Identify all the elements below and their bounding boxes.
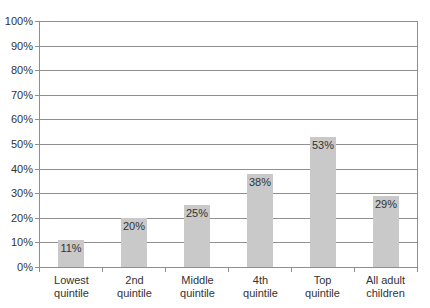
y-axis-tick-label: 40%: [0, 163, 33, 175]
y-axis-tick: [35, 119, 39, 120]
gridline: [40, 218, 417, 219]
y-axis-tick: [35, 169, 39, 170]
y-axis-tick: [35, 242, 39, 243]
gridline: [40, 144, 417, 145]
plot-area: 11%20%25%38%53%29%: [39, 21, 418, 268]
gridline: [40, 242, 417, 243]
y-axis-tick-label: 0%: [0, 261, 33, 273]
y-axis-tick-label: 30%: [0, 187, 33, 199]
y-axis-tick-label: 100%: [0, 15, 33, 27]
bar: 20%: [121, 218, 147, 267]
bar: 11%: [58, 240, 84, 267]
x-axis-tick: [291, 268, 292, 272]
y-axis-tick-label: 80%: [0, 64, 33, 76]
y-axis-tick-label: 90%: [0, 40, 33, 52]
y-axis-tick-label: 20%: [0, 212, 33, 224]
x-axis-category-label: All adult children: [354, 274, 417, 300]
x-axis-category-label: 4th quintile: [229, 274, 292, 300]
y-axis-tick: [35, 70, 39, 71]
bar-value-label: 53%: [310, 139, 336, 152]
y-axis-tick: [35, 46, 39, 47]
x-axis-tick: [165, 268, 166, 272]
y-axis-tick: [35, 193, 39, 194]
x-axis-tick: [39, 268, 40, 272]
y-axis-tick: [35, 144, 39, 145]
y-axis-tick-label: 70%: [0, 89, 33, 101]
gridline: [40, 21, 417, 22]
bar: 25%: [184, 205, 210, 267]
y-axis-tick-label: 50%: [0, 138, 33, 150]
gridline: [40, 70, 417, 71]
x-axis-category-label: Lowest quintile: [40, 274, 103, 300]
y-axis-tick: [35, 218, 39, 219]
gridline: [40, 169, 417, 170]
y-axis-tick-label: 60%: [0, 113, 33, 125]
bar-value-label: 38%: [247, 176, 273, 189]
gridline: [40, 193, 417, 194]
y-axis-tick: [35, 21, 39, 22]
bar-chart: 11%20%25%38%53%29% 0%10%20%30%40%50%60%7…: [0, 0, 430, 308]
x-axis-tick: [228, 268, 229, 272]
bar-value-label: 25%: [184, 207, 210, 220]
bar: 53%: [310, 137, 336, 267]
bar-value-label: 20%: [121, 220, 147, 233]
x-axis-category-label: Top quintile: [291, 274, 354, 300]
x-axis-tick: [417, 268, 418, 272]
bar-value-label: 11%: [58, 242, 84, 255]
y-axis-tick: [35, 95, 39, 96]
x-axis-category-label: 2nd quintile: [103, 274, 166, 300]
gridline: [40, 119, 417, 120]
gridline: [40, 46, 417, 47]
x-axis-tick: [354, 268, 355, 272]
gridline: [40, 95, 417, 96]
bar-value-label: 29%: [373, 198, 399, 211]
y-axis-tick-label: 10%: [0, 236, 33, 248]
x-axis-category-label: Middle quintile: [166, 274, 229, 300]
bar: 29%: [373, 196, 399, 267]
bar: 38%: [247, 174, 273, 267]
x-axis-tick: [102, 268, 103, 272]
